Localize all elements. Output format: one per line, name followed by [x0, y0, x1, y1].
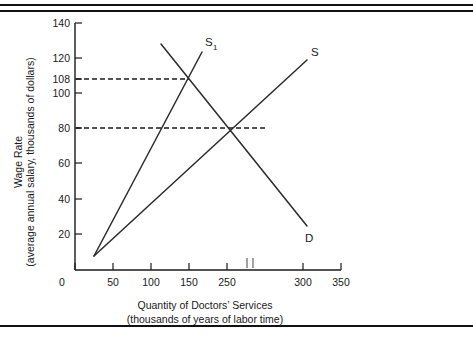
curve-s1	[94, 52, 202, 256]
x-tick-label-100: 100	[142, 276, 160, 288]
figure-container: Wage Rate (average annual salary, thousa…	[0, 0, 473, 339]
top-rule-upper	[0, 4, 473, 6]
x-tick-label-0: 0	[59, 276, 65, 288]
curve-label-s1: S 1	[205, 36, 218, 52]
x-tick-label-350: 350	[332, 276, 350, 288]
x-tick-label-150: 150	[180, 276, 198, 288]
curve-label-s1-text: S	[205, 36, 213, 48]
x-axis-title-line2: (thousands of years of labor time)	[127, 313, 283, 325]
y-tick-label-120: 120	[52, 52, 70, 64]
x-tick-label-300: 300	[294, 276, 312, 288]
curve-label-s: S	[311, 46, 319, 58]
chart-area: Wage Rate (average annual salary, thousa…	[0, 12, 473, 325]
bottom-rule	[0, 325, 473, 327]
y-tick-label-60: 60	[58, 157, 70, 169]
x-tick-label-250: 250	[218, 276, 236, 288]
curve-d	[161, 44, 307, 226]
y-tick-label-100: 100	[52, 87, 70, 99]
x-axis-ticks: 0 50 100 150 250 300 350	[59, 258, 350, 288]
x-tick-label-50: 50	[107, 276, 119, 288]
y-tick-label-140: 140	[52, 17, 70, 29]
curve-label-d: D	[305, 232, 313, 244]
y-axis-title: Wage Rate (average annual salary, thousa…	[12, 57, 36, 266]
y-tick-label-108: 108	[52, 73, 70, 85]
curve-label-s1-subscript: 1	[213, 43, 218, 52]
x-axis-title-line1: Quantity of Doctors’ Services	[138, 299, 273, 311]
supply-demand-chart: Wage Rate (average annual salary, thousa…	[0, 12, 473, 325]
y-axis-title-line2: (average annual salary, thousands of dol…	[24, 57, 36, 266]
x-axis-title: Quantity of Doctors’ Services (thousands…	[127, 299, 283, 325]
curve-s	[94, 60, 307, 256]
axis-tick-artifact	[247, 258, 253, 268]
y-tick-label-20: 20	[58, 228, 70, 240]
y-tick-label-80: 80	[58, 122, 70, 134]
y-tick-label-40: 40	[58, 193, 70, 205]
y-axis-title-line1: Wage Rate	[12, 136, 24, 188]
